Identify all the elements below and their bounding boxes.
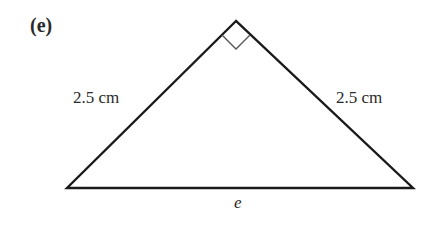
diagram-canvas: (e) 2.5 cm 2.5 cm e: [0, 0, 431, 232]
part-label: (e): [30, 15, 52, 35]
right-side-length: 2.5 cm: [336, 89, 382, 106]
right-angle-marker-icon: [222, 35, 250, 49]
base-side-variable: e: [234, 194, 242, 211]
triangle-figure: [0, 0, 431, 232]
left-side-length: 2.5 cm: [73, 89, 119, 106]
